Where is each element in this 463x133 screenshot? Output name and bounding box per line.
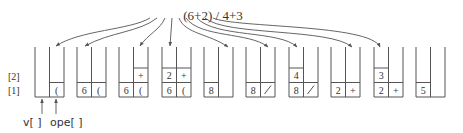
ope-cell-value: ( (139, 85, 143, 97)
stack-step-7: 84 (289, 47, 318, 97)
stack-snapshots: (6(6(+62(+88842+23+5 (35, 47, 445, 97)
stack-step-5: 8 (204, 47, 233, 97)
stack-evaluation-diagram: (6+2) / 4+3 [2] [1] (6(6(+62(+88842+23+5… (0, 0, 463, 133)
ope-cell-divide-symbol (265, 86, 272, 95)
ope-cell-value: + (393, 85, 399, 96)
stack-step-8: 2+ (331, 47, 360, 97)
stack-step-10: 5 (416, 47, 445, 97)
ope-cell-value: ( (55, 85, 59, 97)
v-cell-value: 8 (251, 85, 256, 96)
v-cell-value: 2 (167, 70, 172, 81)
v-cell-value: 2 (336, 85, 341, 96)
arrow-token-open-paren (56, 18, 150, 46)
v-cell-value: 4 (294, 70, 299, 81)
stack-step-6: 8 (246, 47, 275, 97)
v-cell-value: 2 (379, 85, 384, 96)
row-label-2: [2] (8, 71, 20, 82)
stack-step-3: 6(+ (119, 47, 148, 97)
row-label-1: [1] (8, 85, 20, 96)
v-cell-value: 6 (124, 85, 129, 96)
arrow-token-2 (170, 18, 172, 46)
ope-cell-value: + (350, 85, 356, 96)
ope-cell-value: + (181, 70, 187, 81)
stack-step-2: 6( (77, 47, 106, 97)
operator-stack-label: ope[ ] (50, 116, 83, 129)
v-cell-value: 8 (209, 85, 214, 96)
stack-step-4: 62(+ (162, 47, 191, 97)
stack-step-9: 23+ (374, 47, 403, 97)
v-cell-value: 6 (167, 85, 172, 96)
arrow-token-plus (140, 18, 165, 46)
v-cell-value: 5 (421, 85, 426, 96)
ope-cell-value: + (138, 70, 144, 81)
v-cell-value: 6 (82, 85, 87, 96)
v-cell-value: 3 (379, 70, 384, 81)
stack-step-1: ( (35, 47, 64, 97)
ope-cell-value: ( (97, 85, 101, 97)
values-stack-label: v[ ] (23, 116, 42, 129)
ope-cell-value: ( (182, 85, 186, 97)
ope-cell-divide-symbol (308, 86, 315, 95)
v-cell-value: 8 (294, 85, 299, 96)
expression-label: (6+2) / 4+3 (183, 8, 242, 23)
